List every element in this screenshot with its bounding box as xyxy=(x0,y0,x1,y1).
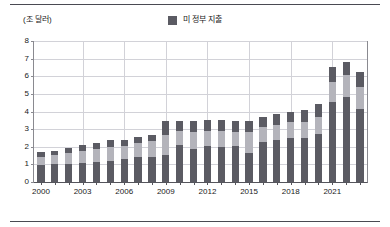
bar-2016 xyxy=(259,117,266,182)
chart-figure: (조 달러) 미 정부 지출 012345678 200020032006200… xyxy=(0,0,390,227)
bar-segment-base xyxy=(245,153,252,182)
bar-segment-top xyxy=(204,120,211,131)
bar-2008 xyxy=(148,135,155,182)
x-tick-mark xyxy=(235,182,236,185)
bar-segment-top xyxy=(218,120,225,131)
bar-segment-base xyxy=(51,164,58,182)
legend-item-label: 미 정부 지출 xyxy=(183,15,222,25)
top-divider xyxy=(10,4,380,5)
bar-2001 xyxy=(51,151,58,182)
x-tick-mark xyxy=(166,182,167,185)
bar-2010 xyxy=(176,121,183,182)
bar-segment-middle xyxy=(79,151,86,162)
x-tick-label: 2000 xyxy=(32,187,50,196)
bar-segment-base xyxy=(343,97,350,182)
x-tick-label: 2012 xyxy=(199,187,217,196)
x-tick-mark xyxy=(221,182,222,185)
bar-segment-top xyxy=(245,121,252,132)
x-tick-label: 2009 xyxy=(157,187,175,196)
bottom-divider xyxy=(10,221,380,222)
plot-area: 012345678 200020032006200920122015201820… xyxy=(33,41,368,183)
bar-2002 xyxy=(65,148,72,182)
bar-segment-middle xyxy=(273,125,280,141)
x-tick-label: 2006 xyxy=(115,187,133,196)
bar-2014 xyxy=(232,121,239,182)
bar-segment-base xyxy=(273,140,280,182)
bar-2005 xyxy=(107,140,114,182)
x-tick-mark xyxy=(249,182,250,185)
x-tick-mark xyxy=(291,182,292,185)
x-tick-label: 2003 xyxy=(74,187,92,196)
bar-2011 xyxy=(190,121,197,182)
bar-segment-middle xyxy=(301,122,308,138)
bar-2015 xyxy=(245,121,252,182)
bar-segment-base xyxy=(162,155,169,182)
y-tick-label: 7 xyxy=(25,55,29,63)
bar-2003 xyxy=(79,145,86,182)
bar-2017 xyxy=(273,114,280,182)
bar-segment-top xyxy=(315,104,322,117)
bar-2020 xyxy=(315,104,322,182)
y-axis-unit-label: (조 달러) xyxy=(23,15,52,25)
bar-segment-base xyxy=(176,145,183,182)
bar-segment-base xyxy=(107,161,114,182)
bar-segment-middle xyxy=(65,153,72,164)
y-tick-label: 3 xyxy=(25,125,29,133)
x-tick-mark xyxy=(360,182,361,185)
x-tick-mark xyxy=(263,182,264,185)
bar-2018 xyxy=(287,112,294,182)
bar-segment-top xyxy=(176,121,183,131)
bar-segment-middle xyxy=(134,143,141,157)
bar-2012 xyxy=(204,120,211,182)
x-tick-label: 2021 xyxy=(323,187,341,196)
x-tick-mark xyxy=(41,182,42,185)
bar-segment-base xyxy=(356,109,363,182)
x-tick-mark xyxy=(55,182,56,185)
bar-segment-top xyxy=(232,121,239,132)
bar-segment-middle xyxy=(121,146,128,160)
x-tick-label: 2015 xyxy=(240,187,258,196)
bar-segment-top xyxy=(356,72,363,88)
bar-segment-middle xyxy=(204,131,211,147)
bar-segment-middle xyxy=(148,141,155,157)
x-tick-label: 2018 xyxy=(282,187,300,196)
bar-segment-middle xyxy=(343,75,350,97)
y-tick-label: 0 xyxy=(25,178,29,186)
bar-2023 xyxy=(356,72,363,182)
bar-2019 xyxy=(301,110,308,182)
x-tick-mark xyxy=(110,182,111,185)
bar-segment-top xyxy=(107,140,114,147)
bar-segment-middle xyxy=(245,132,252,153)
bar-2021 xyxy=(329,67,336,182)
bar-segment-middle xyxy=(176,131,183,145)
x-tick-mark xyxy=(180,182,181,185)
legend-swatch-icon xyxy=(168,16,177,25)
bar-segment-middle xyxy=(190,132,197,148)
chart-legend: 미 정부 지출 xyxy=(168,15,222,25)
bar-segment-base xyxy=(301,138,308,182)
bar-segment-middle xyxy=(356,87,363,109)
bar-segment-base xyxy=(259,142,266,182)
bar-segment-top xyxy=(148,135,155,142)
y-tick-label: 2 xyxy=(25,143,29,151)
y-tick-label: 6 xyxy=(25,72,29,80)
bar-segment-base xyxy=(37,165,44,182)
x-tick-mark xyxy=(318,182,319,185)
y-tick-label: 4 xyxy=(25,108,29,116)
bar-segment-top xyxy=(162,121,169,135)
bar-segment-top xyxy=(273,114,280,124)
bar-series xyxy=(34,41,367,182)
x-tick-mark xyxy=(96,182,97,185)
y-tick-label: 1 xyxy=(25,160,29,168)
x-tick-mark xyxy=(332,182,333,185)
bar-segment-middle xyxy=(259,127,266,143)
bar-2013 xyxy=(218,120,225,182)
bar-segment-middle xyxy=(329,82,336,102)
bar-segment-middle xyxy=(315,117,322,135)
bar-segment-base xyxy=(121,159,128,182)
x-tick-mark xyxy=(305,182,306,185)
x-tick-mark xyxy=(277,182,278,185)
x-tick-mark xyxy=(194,182,195,185)
bar-segment-base xyxy=(65,164,72,183)
bar-segment-top xyxy=(259,117,266,127)
